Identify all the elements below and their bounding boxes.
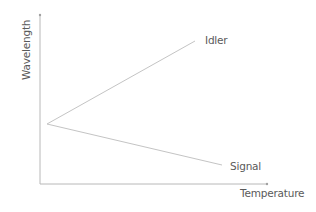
signal-label: Signal (230, 160, 261, 172)
y-axis-arrow-tip (39, 14, 41, 16)
signal-line (47, 124, 222, 165)
idler-line (47, 41, 195, 124)
y-axis-label: Wavelength (20, 22, 32, 80)
x-axis-arrow-tip (266, 183, 268, 185)
x-axis-label: Temperature (240, 187, 304, 199)
diagram-graphics (0, 0, 316, 212)
diagram-canvas: Wavelength Idler Signal Temperature (0, 0, 316, 212)
idler-label: Idler (205, 34, 227, 46)
